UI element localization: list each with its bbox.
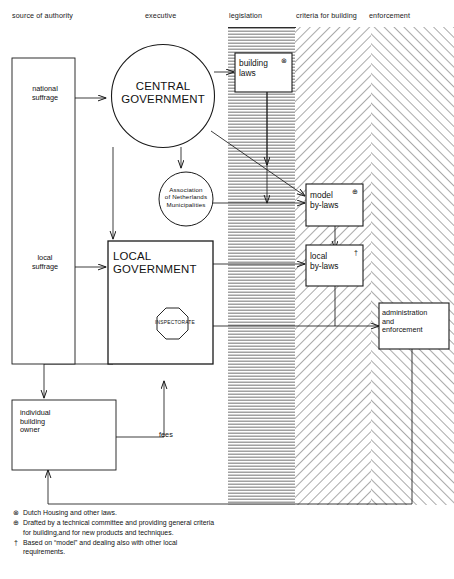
column-header-criteria-for-building: criteria for building bbox=[296, 11, 357, 20]
footnote-text: Based on “model” and dealing also with o… bbox=[23, 538, 177, 558]
marker-local-by-laws-icon: † bbox=[354, 249, 358, 256]
node-label-administration-and-enforcement: administration and enforcement bbox=[382, 309, 427, 335]
footnote-item: ⊗ Dutch Housing and other laws. bbox=[12, 508, 287, 518]
footnote-item: ⊕ Drafted by a technical committee and p… bbox=[12, 518, 287, 538]
node-label-model-by-laws: model by-laws bbox=[310, 191, 338, 211]
edge-building-owner-fees-to-local-government bbox=[116, 381, 164, 437]
hatch-band-enforcement bbox=[371, 27, 454, 505]
footnote-symbol-circled-times-icon: ⊗ bbox=[12, 508, 20, 518]
footnotes: ⊗ Dutch Housing and other laws. ⊕ Drafte… bbox=[12, 508, 287, 557]
hatch-band-legislation bbox=[228, 27, 295, 505]
footnote-text: Drafted by a technical committee and pro… bbox=[23, 518, 214, 538]
node-label-building-laws: building laws bbox=[239, 59, 268, 79]
footnote-item: † Based on “model” and dealing also with… bbox=[12, 538, 287, 558]
node-label-individual-building-owner: individual building owner bbox=[20, 409, 50, 435]
node-label-central-government: CENTRAL GOVERNMENT bbox=[113, 80, 213, 107]
column-header-enforcement: enforcement bbox=[369, 11, 410, 20]
node-label-local-by-laws: local by-laws bbox=[310, 252, 338, 272]
edge-label-fees: fees bbox=[159, 431, 173, 440]
node-label-association: Association of Netherlands Municipalitie… bbox=[154, 186, 218, 208]
footnote-symbol-dagger-icon: † bbox=[12, 538, 20, 548]
marker-building-laws-icon: ⊗ bbox=[281, 57, 287, 64]
marker-model-by-laws-icon: ⊕ bbox=[352, 188, 358, 195]
column-header-source-of-authority: source of authority bbox=[12, 11, 73, 20]
node-label-local-government: LOCAL GOVERNMENT bbox=[113, 250, 201, 277]
footnote-symbol-circled-plus-icon: ⊕ bbox=[12, 518, 20, 528]
footnote-text: Dutch Housing and other laws. bbox=[23, 508, 117, 518]
node-label-national-suffrage: national suffrage bbox=[21, 85, 69, 102]
node-label-local-suffrage: local suffrage bbox=[21, 254, 69, 271]
node-label-inspectorate: INSPECTORATE bbox=[155, 320, 191, 326]
suffrage-box bbox=[12, 58, 75, 364]
column-header-executive: executive bbox=[145, 11, 176, 20]
column-header-legislation: legislation bbox=[229, 11, 262, 20]
